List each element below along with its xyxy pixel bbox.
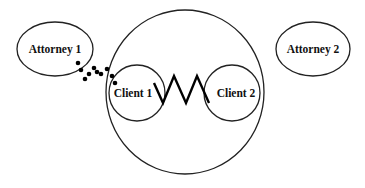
dot (113, 81, 118, 86)
dot (110, 74, 115, 79)
dot (76, 61, 81, 66)
attorney-2-label: Attorney 2 (287, 43, 340, 56)
dot (99, 72, 104, 77)
dot (95, 70, 100, 75)
dot (92, 66, 97, 71)
dot (83, 77, 88, 82)
client-1-label: Client 1 (114, 87, 153, 99)
attorney-2-node: Attorney 2 (276, 22, 350, 76)
client-1-node: Client 1 (109, 65, 165, 121)
dot (87, 72, 92, 77)
dot (105, 67, 110, 72)
attorney-1-label: Attorney 1 (29, 43, 82, 56)
client-2-node: Client 2 (204, 65, 260, 121)
dot (79, 68, 84, 73)
conflict-diagram: Attorney 1 Attorney 2 Client 1 Client 2 (0, 0, 365, 188)
client-2-label: Client 2 (217, 87, 256, 99)
